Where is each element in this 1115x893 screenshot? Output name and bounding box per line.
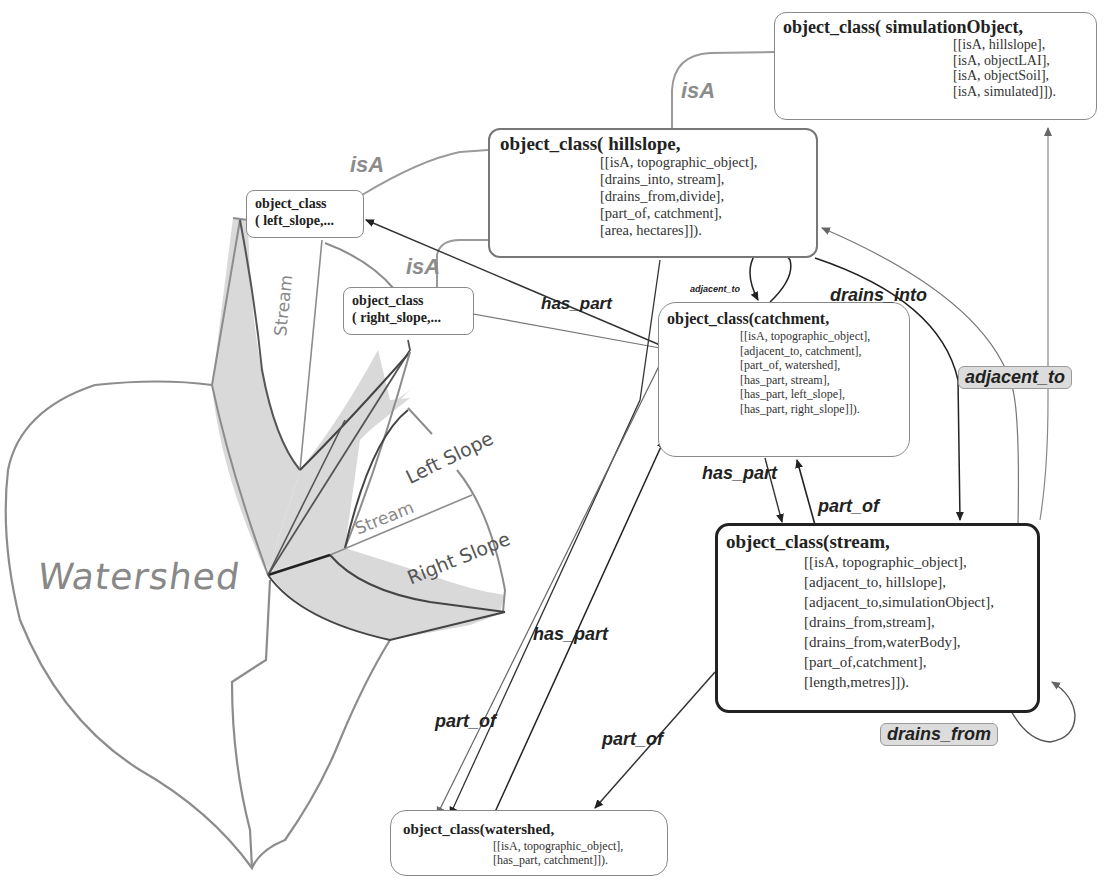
watershed-divide	[232, 580, 270, 868]
node-title: object_class	[352, 292, 465, 309]
edge-label-drainsinto: drains_into	[830, 285, 927, 306]
node-attributes: [[isA, topographic_object], [drains_into…	[600, 154, 806, 239]
edge-label-partof-stream-catchment: part_of	[818, 496, 879, 517]
node-simulationObject[interactable]: object_class( simulationObject, [[isA, h…	[774, 12, 1097, 120]
sketch-label-watershed: Watershed	[35, 556, 243, 597]
edge-isA-rightslope-hillslope	[437, 240, 488, 287]
node-title-cont: ( right_slope,...	[352, 309, 465, 326]
node-attributes: [[isA, hillslope], [isA, objectLAI], [is…	[953, 37, 1088, 99]
edge-adjacentto-stream-simulationObject	[1040, 128, 1048, 520]
edge-partof-stream-catchment	[797, 460, 815, 525]
node-attributes: [[isA, topographic_object], [has_part, c…	[493, 839, 655, 867]
node-left-slope[interactable]: object_class ( left_slope,...	[246, 190, 364, 238]
edge-label-haspart-watershed-catchment: has_part	[533, 624, 608, 645]
node-attributes: [[isA, topographic_object], [adjacent_to…	[740, 329, 901, 416]
node-title: object_class(watershed,	[403, 819, 655, 839]
edge-label-haspart-catchment-slopes: has_part	[541, 294, 612, 314]
node-title-cont: ( left_slope,...	[255, 212, 355, 229]
stream-line-vertical	[300, 240, 322, 470]
node-title: object_class( hillslope,	[500, 134, 806, 154]
node-watershed[interactable]: object_class(watershed, [[isA, topograph…	[390, 810, 668, 876]
node-title: object_class( simulationObject,	[783, 17, 1088, 37]
node-hillslope[interactable]: object_class( hillslope, [[isA, topograp…	[488, 128, 818, 258]
edge-label-isA-rightslope: isA	[406, 254, 440, 280]
edge-label-isA-leftslope: isA	[350, 152, 384, 178]
node-title: object_class(stream,	[726, 532, 1029, 552]
edge-label-adjacentto-catchment-self: adjacent_to	[690, 284, 740, 294]
node-attributes: [[isA, topographic_object], [adjacent_to…	[804, 552, 1029, 692]
node-catchment[interactable]: object_class(catchment, [[isA, topograph…	[658, 302, 910, 457]
edge-label-drainsfrom-badge: drains_from	[880, 723, 998, 746]
node-title: object_class	[255, 195, 355, 212]
node-right-slope[interactable]: object_class ( right_slope,...	[343, 287, 474, 335]
edge-label-adjacentto-badge: adjacent_to	[958, 366, 1072, 389]
edge-label-partof-stream-watershed: part_of	[602, 729, 663, 750]
node-title: object_class(catchment,	[667, 309, 901, 329]
edge-label-partof-catchment-watershed: part_of	[435, 711, 496, 732]
node-stream[interactable]: object_class(stream, [[isA, topographic_…	[715, 523, 1040, 713]
edge-label-haspart-catchment-stream: has_part	[702, 463, 777, 484]
edge-label-isA-simulationObject: isA	[681, 78, 715, 104]
